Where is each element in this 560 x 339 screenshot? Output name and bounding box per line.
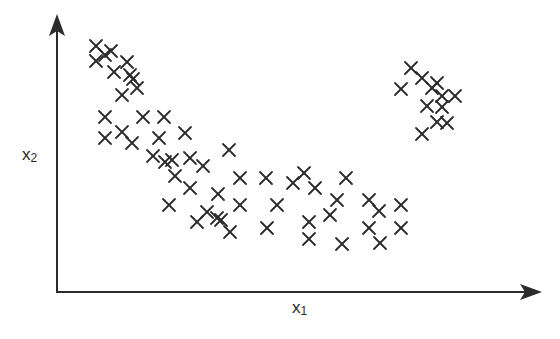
scatter-plot [0, 0, 560, 339]
x-marker-icon [303, 233, 315, 245]
x-marker-icon [395, 199, 407, 211]
x-marker-icon [234, 199, 246, 211]
x-axis-label-subscript: 1 [301, 304, 308, 318]
y-axis-label-main: x [22, 145, 31, 164]
x-marker-icon [309, 182, 321, 194]
x-marker-icon [116, 89, 128, 101]
x-marker-icon [197, 160, 209, 172]
x-marker-icon [426, 82, 438, 94]
x-marker-icon [416, 128, 428, 140]
x-marker-icon [153, 132, 165, 144]
x-marker-icon [336, 238, 348, 250]
x-marker-icon [158, 111, 170, 123]
y-axis-label-subscript: 2 [31, 151, 38, 165]
x-marker-icon [260, 172, 272, 184]
x-marker-icon [373, 205, 385, 217]
x-marker-icon [395, 83, 407, 95]
x-marker-icon [271, 199, 283, 211]
x-axis-label: x1 [292, 299, 307, 316]
x-marker-icon [324, 209, 336, 221]
x-marker-icon [436, 101, 448, 113]
data-points [90, 40, 461, 250]
x-marker-icon [108, 66, 120, 78]
x-marker-icon [340, 172, 352, 184]
x-marker-icon [261, 222, 273, 234]
x-marker-icon [99, 111, 111, 123]
x-marker-icon [147, 150, 159, 162]
x-marker-icon [234, 172, 246, 184]
x-marker-icon [395, 222, 407, 234]
x-marker-icon [212, 188, 224, 200]
x-marker-icon [191, 216, 203, 228]
x-marker-icon [303, 216, 315, 228]
x-marker-icon [331, 194, 343, 206]
x-marker-icon [436, 90, 448, 102]
x-marker-icon [374, 237, 386, 249]
x-marker-icon [137, 111, 149, 123]
x-marker-icon [421, 100, 433, 112]
x-marker-icon [163, 199, 175, 211]
x-marker-icon [126, 137, 138, 149]
x-marker-icon [363, 222, 375, 234]
x-marker-icon [184, 182, 196, 194]
x-marker-icon [179, 127, 191, 139]
x-marker-icon [169, 170, 181, 182]
x-marker-icon [99, 132, 111, 144]
y-axis-label: x2 [22, 146, 37, 163]
x-marker-icon [223, 144, 235, 156]
x-marker-icon [121, 56, 133, 68]
x-marker-icon [449, 90, 461, 102]
x-marker-icon [441, 117, 453, 129]
x-marker-icon [215, 214, 227, 226]
x-axis-label-main: x [292, 298, 301, 317]
x-marker-icon [224, 226, 236, 238]
x-marker-icon [298, 167, 310, 179]
x-marker-icon [184, 152, 196, 164]
x-marker-icon [105, 45, 117, 57]
